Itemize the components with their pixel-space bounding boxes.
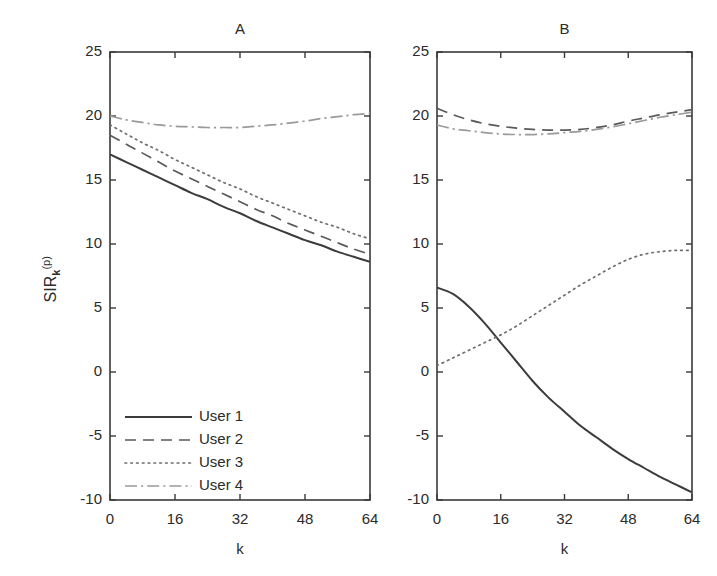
series-line-user-3 bbox=[437, 250, 692, 365]
y-tick-label: 25 bbox=[381, 42, 429, 59]
series-line-user-1 bbox=[110, 154, 370, 262]
plot-area bbox=[0, 0, 717, 576]
x-tick-label: 0 bbox=[86, 510, 134, 527]
y-tick-label: -10 bbox=[381, 490, 429, 507]
y-tick-label: 20 bbox=[381, 106, 429, 123]
y-tick-label: 25 bbox=[54, 42, 102, 59]
y-tick-label: 20 bbox=[54, 106, 102, 123]
series-line-user-1 bbox=[437, 288, 692, 493]
x-tick-label: 64 bbox=[668, 510, 716, 527]
y-tick-label: 5 bbox=[381, 298, 429, 315]
y-tick-label: -5 bbox=[54, 426, 102, 443]
y-tick-label: 15 bbox=[54, 170, 102, 187]
y-tick-label: 5 bbox=[54, 298, 102, 315]
y-tick-label: 15 bbox=[381, 170, 429, 187]
legend-label-user-2: User 2 bbox=[199, 430, 243, 447]
y-tick-label: 0 bbox=[381, 362, 429, 379]
y-tick-label: 10 bbox=[54, 234, 102, 251]
x-tick-label: 48 bbox=[281, 510, 329, 527]
series-line-user-4 bbox=[110, 113, 370, 127]
series-line-user-2 bbox=[437, 108, 692, 130]
x-tick-label: 48 bbox=[604, 510, 652, 527]
y-tick-label: -5 bbox=[381, 426, 429, 443]
y-tick-label: 0 bbox=[54, 362, 102, 379]
legend-label-user-1: User 1 bbox=[199, 407, 243, 424]
x-tick-label: 16 bbox=[477, 510, 525, 527]
y-tick-label: 10 bbox=[381, 234, 429, 251]
legend-label-user-4: User 4 bbox=[199, 476, 243, 493]
x-tick-label: 64 bbox=[346, 510, 394, 527]
series-line-user-3 bbox=[110, 125, 370, 239]
y-tick-label: -10 bbox=[54, 490, 102, 507]
x-tick-label: 0 bbox=[413, 510, 461, 527]
x-tick-label: 16 bbox=[151, 510, 199, 527]
series-line-user-2 bbox=[110, 135, 370, 254]
x-tick-label: 32 bbox=[216, 510, 264, 527]
legend-label-user-3: User 3 bbox=[199, 453, 243, 470]
figure-canvas: SIRk(p) A k B k -10-50510152025016324864… bbox=[0, 0, 717, 576]
x-tick-label: 32 bbox=[541, 510, 589, 527]
